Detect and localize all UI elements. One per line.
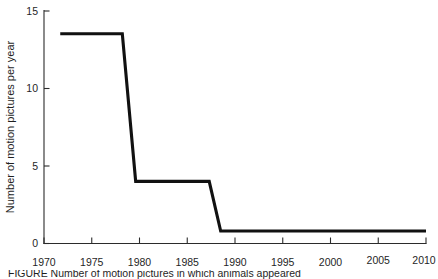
line-chart: 0 5 10 15 1970 1975 1980 1985 1990 1995 …: [0, 0, 438, 279]
x-tick-label-1995: 1995: [271, 256, 295, 268]
figure-caption-strip: FIGURE Number of motion pictures in whic…: [0, 270, 438, 279]
x-tick-label-2000: 2000: [319, 256, 343, 268]
x-tick-label-1970: 1970: [32, 256, 56, 268]
y-tick-label-5: 5: [32, 160, 38, 172]
y-tick-marks: [44, 11, 50, 244]
x-tick-label-1975: 1975: [80, 256, 104, 268]
x-tick-label-2005: 2005: [367, 254, 391, 266]
x-tick-label-1980: 1980: [128, 256, 152, 268]
x-tick-label-1985: 1985: [176, 256, 200, 268]
data-series-motion-pictures: [60, 34, 426, 231]
x-tick-marks: [44, 238, 426, 244]
y-tick-label-15: 15: [26, 5, 38, 17]
figure-container: 0 5 10 15 1970 1975 1980 1985 1990 1995 …: [0, 0, 438, 279]
x-tick-label-1990: 1990: [223, 256, 247, 268]
y-axis-title: Number of motion pictures per year: [4, 40, 16, 213]
y-tick-label-10: 10: [26, 82, 38, 94]
y-tick-label-0: 0: [32, 237, 38, 249]
x-tick-label-2010: 2010: [412, 254, 436, 266]
figure-caption: FIGURE Number of motion pictures in whic…: [8, 270, 301, 279]
